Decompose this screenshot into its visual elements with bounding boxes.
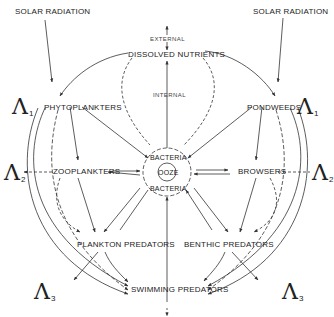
external-label: EXTERNAL — [150, 36, 185, 42]
internal-label: INTERNAL — [153, 92, 186, 98]
swimming-predators-node: SWIMMING PREDATORS — [131, 286, 229, 294]
lambda-2-left: Λ2 — [4, 162, 25, 184]
lambda-1-left: Λ1 — [12, 96, 33, 118]
phytoplankters-node: PHYTOPLANKTERS — [44, 104, 122, 112]
lambda-2-right: Λ2 — [312, 162, 333, 184]
dissolved-nutrients-node: DISSOLVED NUTRIENTS — [128, 51, 225, 59]
lambda-1-right: Λ1 — [297, 96, 318, 118]
zooplankters-node: ZOOPLANKTERS — [53, 168, 120, 176]
ooze-node: OOZE — [158, 169, 179, 176]
pondweeds-node: PONDWEEDS — [247, 104, 301, 112]
solar-radiation-left-label: SOLAR RADIATION — [15, 8, 90, 16]
lambda-3-right: Λ3 — [282, 281, 303, 303]
food-web-diagram: SOLAR RADIATION SOLAR RADIATION EXTERNAL… — [0, 0, 334, 317]
benthic-predators-node: BENTHIC PREDATORS — [184, 241, 274, 249]
solar-radiation-right-label: SOLAR RADIATION — [253, 8, 328, 16]
lambda-3-left: Λ3 — [34, 281, 55, 303]
bacteria-bottom-node: BACTERIA — [150, 185, 187, 192]
plankton-predators-node: PLANKTON PREDATORS — [77, 241, 175, 249]
browsers-node: BROWSERS — [238, 168, 286, 176]
bacteria-top-node: BACTERIA — [150, 154, 187, 161]
